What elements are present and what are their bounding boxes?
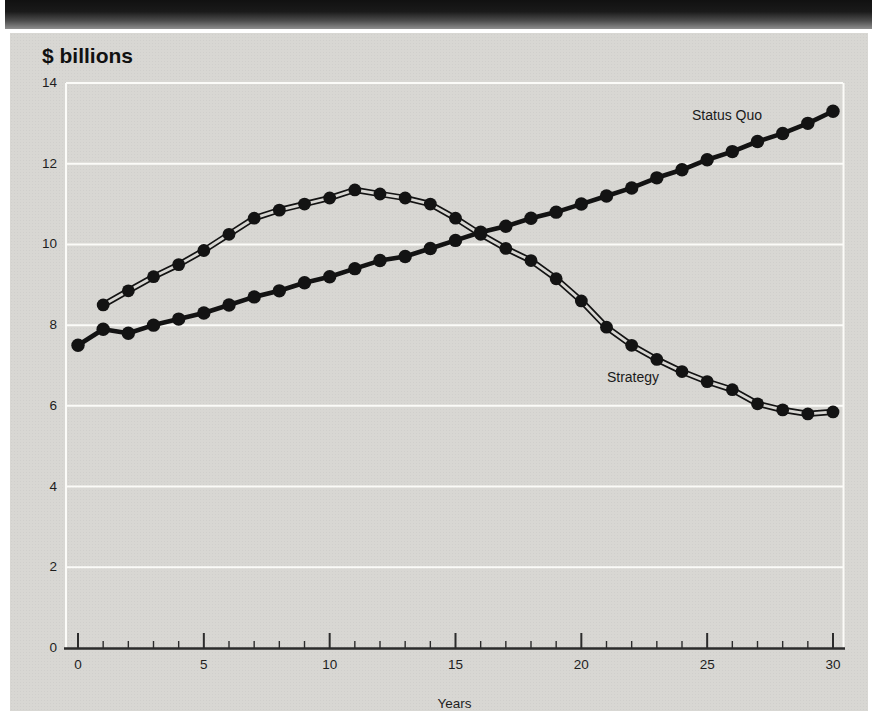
x-tick-label: 25	[685, 657, 729, 673]
y-tick-label: 14	[0, 75, 57, 91]
y-tick-label: 6	[0, 398, 57, 414]
x-tick-label: 20	[559, 657, 603, 673]
top-banner	[5, 0, 872, 29]
y-tick-label: 4	[0, 479, 57, 495]
y-tick-label: 8	[0, 317, 57, 333]
x-tick-label: 10	[308, 657, 352, 673]
y-axis-title: $ billions	[42, 44, 133, 68]
y-tick-label: 10	[0, 236, 57, 252]
y-tick-label: 0	[0, 640, 57, 656]
x-tick-label: 5	[182, 657, 226, 673]
series-label-status-quo: Status Quo	[692, 107, 762, 123]
chart-panel	[10, 33, 868, 711]
x-axis-title: Years	[414, 696, 495, 711]
x-tick-label: 0	[56, 657, 100, 673]
x-tick-label: 15	[434, 657, 478, 673]
x-tick-label: 30	[811, 657, 855, 673]
y-tick-label: 12	[0, 156, 57, 172]
page: $ billions 02468101214 051015202530 Year…	[0, 0, 877, 726]
series-label-strategy: Strategy	[607, 369, 659, 385]
y-tick-label: 2	[0, 559, 57, 575]
